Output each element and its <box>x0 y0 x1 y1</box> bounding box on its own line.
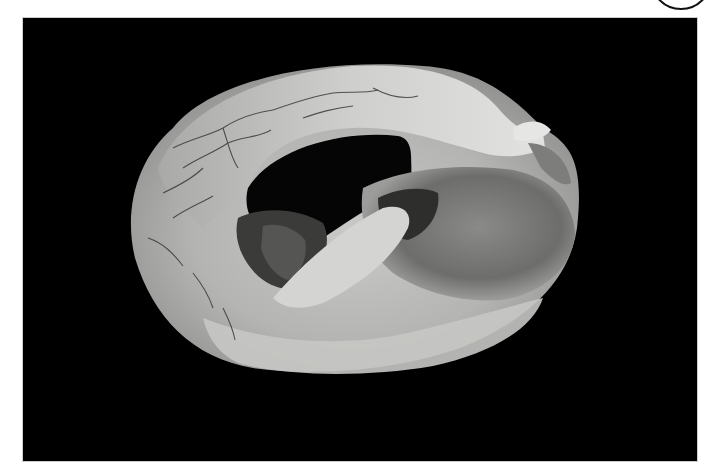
specimen-photo: Grayscale photograph of a curled ring-sh… <box>23 18 697 461</box>
specimen-illustration <box>23 18 697 461</box>
corner-circle-marker <box>650 0 707 10</box>
